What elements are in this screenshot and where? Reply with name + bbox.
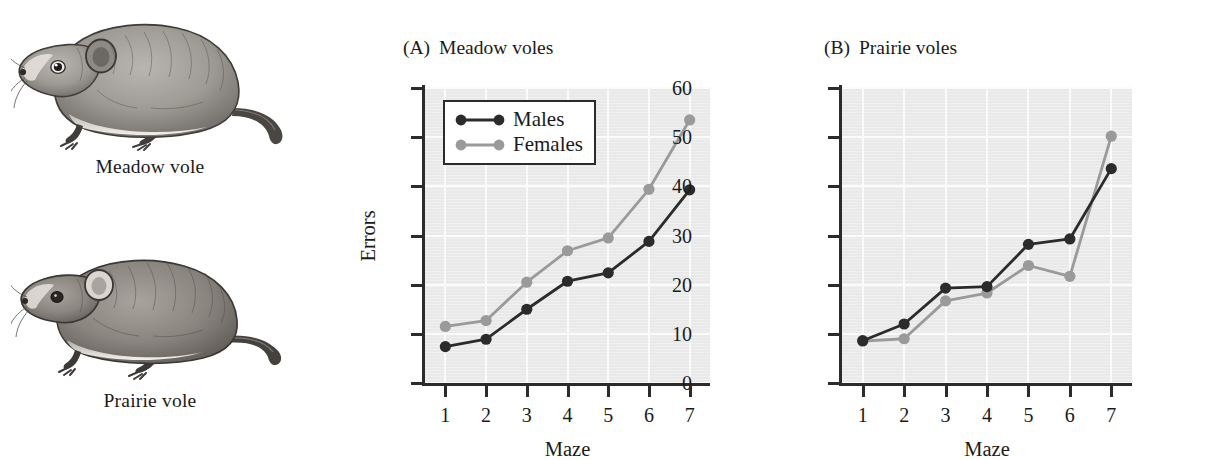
chart-b-plot: 1234567 Maze (842, 88, 1132, 383)
x-axis-tick (1069, 385, 1072, 397)
data-point-males (940, 283, 951, 294)
y-axis-tick (411, 382, 423, 385)
data-point-females (899, 333, 910, 344)
data-point-males (480, 334, 491, 345)
y-axis-tick (828, 87, 840, 90)
data-point-males (857, 335, 868, 346)
panel-a-letter: (A) (403, 37, 430, 58)
x-axis-tick (648, 385, 651, 397)
series-line-males (863, 169, 1112, 341)
data-point-females (1106, 131, 1117, 142)
legend-label-males: Males (513, 109, 564, 130)
data-point-females (603, 232, 614, 243)
data-point-males (562, 276, 573, 287)
data-point-males (643, 236, 654, 247)
y-axis-tick (828, 185, 840, 188)
data-point-males (440, 341, 451, 352)
y-axis-tick-label: 40 (672, 176, 692, 196)
panel-b-title: (B)Prairie voles (824, 37, 957, 59)
y-axis-tick-label: 60 (672, 78, 692, 98)
x-axis-tick (485, 385, 488, 397)
data-point-females (643, 184, 654, 195)
y-axis-tick (411, 87, 423, 90)
data-point-males (603, 267, 614, 278)
x-axis-tick-label: 2 (899, 405, 909, 425)
x-axis-tick-label: 4 (563, 405, 573, 425)
data-point-males (981, 281, 992, 292)
panel-b-title-text: Prairie voles (859, 37, 957, 58)
x-axis-tick-label: 7 (1106, 405, 1116, 425)
chart-a-legend: Males Females (443, 100, 596, 165)
x-axis-tick (1027, 385, 1030, 397)
x-axis-tick-label: 5 (1023, 405, 1033, 425)
y-axis-tick (411, 136, 423, 139)
prairie-vole-caption: Prairie vole (0, 390, 300, 412)
prairie-vole-figure: Prairie vole (0, 238, 300, 412)
x-axis-tick-label: 4 (982, 405, 992, 425)
y-axis-tick (828, 382, 840, 385)
x-axis-tick (567, 385, 570, 397)
data-point-females (940, 295, 951, 306)
y-axis-tick-label: 20 (672, 275, 692, 295)
x-axis-tick (607, 385, 610, 397)
x-axis-tick-label: 3 (941, 405, 951, 425)
x-axis-tick (1110, 385, 1113, 397)
females-line-swatch-icon (454, 138, 506, 152)
data-point-females (1064, 271, 1075, 282)
chart-a-x-axis-title: Maze (545, 438, 591, 460)
data-point-males (1023, 239, 1034, 250)
y-axis-tick (828, 284, 840, 287)
x-axis-tick (444, 385, 447, 397)
data-point-females (440, 321, 451, 332)
x-axis-tick-label: 1 (858, 405, 868, 425)
x-axis-tick-label: 6 (644, 405, 654, 425)
x-axis-tick (689, 385, 692, 397)
y-axis-tick-label: 10 (672, 324, 692, 344)
y-axis-tick (828, 136, 840, 139)
chart-b-series (842, 88, 1132, 383)
data-point-females (480, 315, 491, 326)
panel-a-title-text: Meadow voles (439, 37, 553, 58)
x-axis-tick (903, 385, 906, 397)
y-axis-tick (828, 333, 840, 336)
x-axis-tick-label: 2 (481, 405, 491, 425)
males-line-swatch-icon (454, 113, 506, 127)
meadow-vole-figure: Meadow vole (0, 4, 300, 178)
x-axis-tick (986, 385, 989, 397)
y-axis-tick (411, 235, 423, 238)
y-axis-tick-label: 50 (672, 127, 692, 147)
legend-item-females: Females (454, 132, 583, 157)
data-point-males (899, 318, 910, 329)
y-axis-tick (411, 333, 423, 336)
data-point-males (1106, 163, 1117, 174)
chart-b-x-axis-title: Maze (964, 438, 1010, 460)
x-axis-tick (862, 385, 865, 397)
panel-b-letter: (B) (824, 37, 850, 58)
chart-a-plot: 0102030405060 1234567 Errors Maze Males … (425, 88, 710, 383)
prairie-vole-icon (11, 238, 289, 388)
meadow-vole-icon (11, 4, 289, 154)
data-point-males (1064, 233, 1075, 244)
panel-a-title: (A)Meadow voles (403, 37, 553, 59)
y-axis-tick (411, 185, 423, 188)
x-axis-tick-label: 5 (603, 405, 613, 425)
x-axis-tick-label: 6 (1065, 405, 1075, 425)
x-axis-tick-label: 7 (685, 405, 695, 425)
legend-label-females: Females (513, 134, 583, 155)
vole-illustration-column: Meadow vole (0, 0, 300, 455)
panel-b-prairie-voles: (B)Prairie voles 1234567 Maze (760, 0, 1231, 455)
chart-a-y-axis-title: Errors (357, 210, 380, 261)
x-axis-tick (945, 385, 948, 397)
data-point-females (684, 114, 695, 125)
x-axis-tick-label: 3 (522, 405, 532, 425)
meadow-vole-caption: Meadow vole (0, 156, 300, 178)
x-axis-tick-label: 1 (440, 405, 450, 425)
y-axis-tick (828, 235, 840, 238)
x-axis-tick (526, 385, 529, 397)
legend-item-males: Males (454, 107, 583, 132)
panel-a-meadow-voles: (A)Meadow voles 0102030405060 1234567 Er… (300, 0, 760, 455)
data-point-females (521, 277, 532, 288)
data-point-males (521, 304, 532, 315)
y-axis-tick-label: 30 (672, 226, 692, 246)
data-point-females (1023, 260, 1034, 271)
